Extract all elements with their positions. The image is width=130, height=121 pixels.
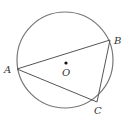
center-point <box>64 61 67 64</box>
segment-bc <box>97 40 110 102</box>
label-a: A <box>3 64 11 75</box>
label-b: B <box>113 35 121 46</box>
segment-ca <box>17 69 97 102</box>
label-o: O <box>62 67 70 78</box>
geometry-diagram: A B C O <box>0 0 130 121</box>
label-c: C <box>94 105 102 116</box>
segment-ab <box>17 40 110 69</box>
